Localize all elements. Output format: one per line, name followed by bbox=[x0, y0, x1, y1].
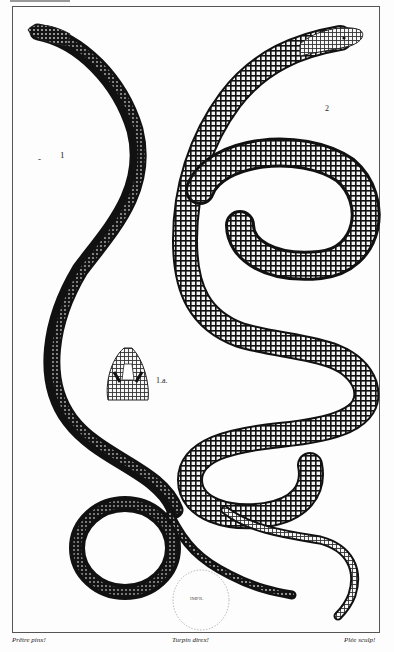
engraving-plate: IMPR. - 1 1.a. 2 Prêtre pinx! Turpin dir… bbox=[0, 0, 394, 652]
figure-2-lizard bbox=[185, 28, 366, 616]
figure-1a-head-detail bbox=[107, 348, 148, 400]
stamp-center-text: IMPR. bbox=[190, 596, 203, 601]
credit-painter: Prêtre pinx! bbox=[12, 636, 46, 644]
library-stamp: IMPR. bbox=[173, 570, 229, 630]
figure-1-dash: - bbox=[38, 154, 41, 164]
figure-1a-label: 1.a. bbox=[156, 376, 168, 385]
figure-1-label: 1 bbox=[60, 150, 65, 160]
credit-engraver: Plée sculp! bbox=[344, 636, 375, 644]
illustration: IMPR. bbox=[0, 0, 394, 652]
figure-2-label: 2 bbox=[325, 104, 329, 113]
credit-director: Turpin direx! bbox=[172, 636, 209, 644]
